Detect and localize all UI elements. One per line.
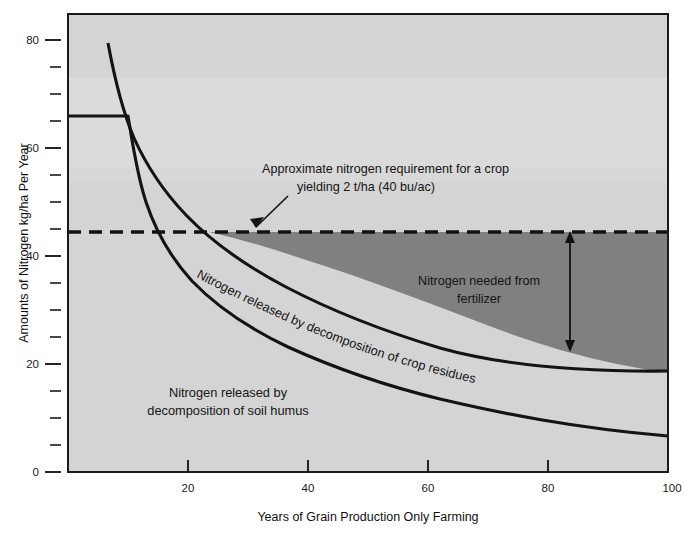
chart-figure: 0 20 40 60 80 20 40 60 80 100 Amounts of… [0,0,690,535]
fertilizer-annotation-line1: Nitrogen needed from [418,274,540,288]
plot-background-light-band [68,78,668,168]
soil-humus-label-line1: Nitrogen released by [169,385,288,400]
x-tick-label-100: 100 [662,482,681,494]
y-tick-label-0: 0 [33,466,39,478]
x-tick-label-80: 80 [542,482,555,494]
x-axis-title: Years of Grain Production Only Farming [257,510,478,524]
y-tick-label-80: 80 [26,34,39,46]
soil-humus-label-line2: decomposition of soil humus [147,403,308,418]
x-tick-label-40: 40 [302,482,315,494]
requirement-annotation-line2: yielding 2 t/ha (40 bu/ac) [297,180,435,194]
y-tick-label-20: 20 [26,358,39,370]
y-axis-title: Amounts of Nitrogen kg/ha Per Year [17,143,31,342]
x-tick-label-60: 60 [422,482,435,494]
chart-svg: 0 20 40 60 80 20 40 60 80 100 Amounts of… [0,0,690,535]
fertilizer-annotation-line2: fertilizer [457,292,501,306]
x-tick-label-20: 20 [182,482,195,494]
requirement-annotation-line1: Approximate nitrogen requirement for a c… [262,162,509,176]
